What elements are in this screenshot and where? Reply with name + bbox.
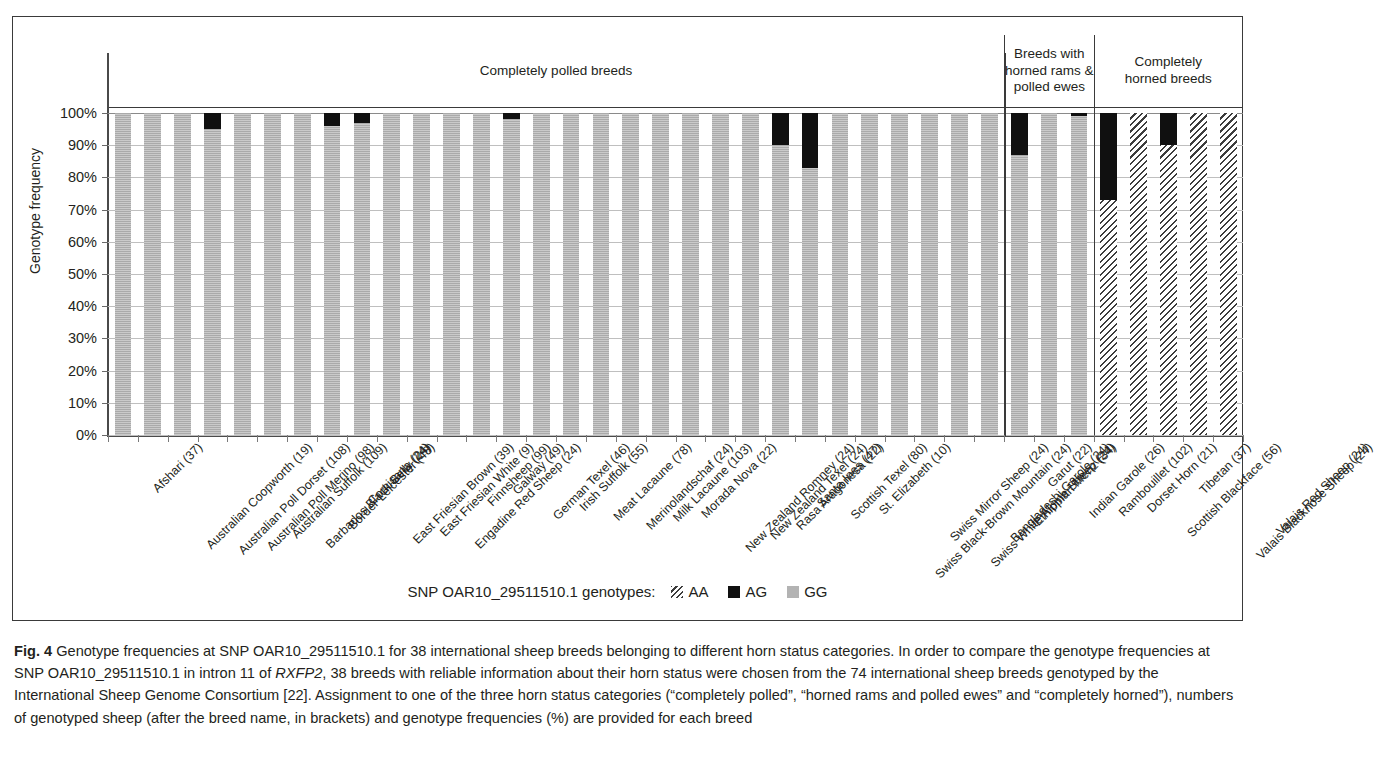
stacked-bar[interactable] <box>1190 113 1207 435</box>
stacked-bar[interactable] <box>144 113 161 435</box>
bar-slot <box>1124 113 1154 435</box>
legend-item-gg: GG <box>787 583 827 600</box>
bar-segment-gg <box>921 113 938 435</box>
stacked-bar[interactable] <box>951 113 968 435</box>
bar-slot <box>795 113 825 435</box>
legend-swatch-aa-icon <box>671 586 683 598</box>
group-header-label-line2: horned rams & <box>1005 63 1094 78</box>
stacked-bar[interactable] <box>861 113 878 435</box>
stacked-bar[interactable] <box>593 113 610 435</box>
stacked-bar[interactable] <box>1160 113 1177 435</box>
stacked-bar[interactable] <box>682 113 699 435</box>
x-axis-tick <box>347 435 348 442</box>
legend-label-gg: GG <box>804 583 827 600</box>
x-axis-tick <box>735 435 736 442</box>
stacked-bar[interactable] <box>622 113 639 435</box>
bar-slot <box>915 113 945 435</box>
plot-area: 0%10%20%30%40%50%60%70%80%90%100% <box>108 113 1243 435</box>
stacked-bar[interactable] <box>981 113 998 435</box>
legend-item-aa: AA <box>671 583 708 600</box>
y-axis-tick-label: 90% <box>68 137 97 153</box>
bar-slot <box>1213 113 1243 435</box>
x-axis-tick <box>1004 435 1005 442</box>
stacked-bar[interactable] <box>383 113 400 435</box>
bar-slot <box>765 113 795 435</box>
y-axis-tick <box>102 338 108 339</box>
stacked-bar[interactable] <box>294 113 311 435</box>
stacked-bar[interactable] <box>174 113 191 435</box>
bar-slot <box>735 113 765 435</box>
bar-slot <box>825 113 855 435</box>
stacked-bar[interactable] <box>712 113 729 435</box>
bar-segment-gg <box>383 113 400 435</box>
stacked-bar[interactable] <box>413 113 430 435</box>
stacked-bar[interactable] <box>1130 113 1147 435</box>
bar-slot <box>496 113 526 435</box>
x-axis-label: Afshari (37) <box>151 441 205 495</box>
stacked-bar[interactable] <box>1041 113 1058 435</box>
y-axis-tick-label: 40% <box>68 298 97 314</box>
stacked-bar[interactable] <box>802 113 819 435</box>
legend-title: SNP OAR10_29511510.1 genotypes: <box>407 583 655 600</box>
stacked-bar[interactable] <box>1100 113 1117 435</box>
bar-slot <box>287 113 317 435</box>
x-axis-tick <box>616 435 617 442</box>
bar-slot <box>526 113 556 435</box>
stacked-bar[interactable] <box>832 113 849 435</box>
stacked-bar[interactable] <box>234 113 251 435</box>
stacked-bar[interactable] <box>473 113 490 435</box>
bar-segment-gg <box>294 113 311 435</box>
bar-segment-gg <box>593 113 610 435</box>
stacked-bar[interactable] <box>354 113 371 435</box>
stacked-bar[interactable] <box>772 113 789 435</box>
stacked-bar[interactable] <box>652 113 669 435</box>
x-axis-tick <box>914 435 915 442</box>
stacked-bar[interactable] <box>1011 113 1028 435</box>
stacked-bar[interactable] <box>742 113 759 435</box>
x-axis-tick <box>885 435 886 442</box>
bar-slot <box>108 113 138 435</box>
stacked-bar[interactable] <box>891 113 908 435</box>
stacked-bar[interactable] <box>1220 113 1237 435</box>
bar-segment-gg <box>742 113 759 435</box>
bar-slot <box>706 113 736 435</box>
stacked-bar[interactable] <box>533 113 550 435</box>
stacked-bar[interactable] <box>503 113 520 435</box>
bar-segment-gg <box>174 113 191 435</box>
stacked-bar[interactable] <box>921 113 938 435</box>
chart-legend: SNP OAR10_29511510.1 genotypes: AA AG GG <box>13 583 1242 600</box>
y-axis-tick <box>102 274 108 275</box>
group-header-label-line2: horned breeds <box>1125 71 1212 86</box>
y-axis-tick <box>102 403 108 404</box>
x-axis-label: New Zealand Texel (24) <box>768 441 869 542</box>
bar-segment-ag <box>772 113 789 145</box>
bar-segment-gg <box>264 113 281 435</box>
stacked-bar[interactable] <box>443 113 460 435</box>
stacked-bar[interactable] <box>563 113 580 435</box>
bar-slot <box>1154 113 1184 435</box>
stacked-bar[interactable] <box>264 113 281 435</box>
bar-series-container <box>108 113 1243 435</box>
y-axis-tick-label: 60% <box>68 234 97 250</box>
bar-segment-gg <box>115 113 132 435</box>
x-axis-tick <box>466 435 467 442</box>
group-separator <box>1094 53 1096 436</box>
bar-slot <box>1034 113 1064 435</box>
stacked-bar[interactable] <box>204 113 221 435</box>
stacked-bar[interactable] <box>1071 113 1088 435</box>
bar-slot <box>1184 113 1214 435</box>
x-axis-label: Australian Poll Merino (98) <box>265 441 377 553</box>
group-header-label-line1: Breeds with <box>1014 46 1085 61</box>
bar-segment-gg <box>1041 113 1058 435</box>
figure-label: Fig. 4 <box>14 643 52 659</box>
stacked-bar[interactable] <box>324 113 341 435</box>
x-axis-tick <box>825 435 826 442</box>
x-axis-tick <box>1213 435 1214 442</box>
x-axis-tick <box>1153 435 1154 442</box>
y-axis-tick <box>102 371 108 372</box>
bar-segment-gg <box>563 113 580 435</box>
y-axis-tick <box>102 113 108 114</box>
stacked-bar[interactable] <box>115 113 132 435</box>
x-axis-tick <box>974 435 975 442</box>
y-axis-tick-label: 0% <box>76 427 97 443</box>
